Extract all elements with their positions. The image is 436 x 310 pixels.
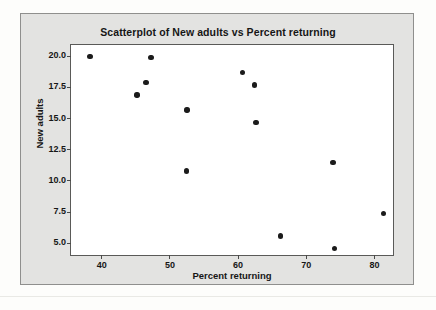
plot-area: 20.017.515.012.510.07.55.0 4050607080: [70, 44, 394, 256]
scatter-point: [278, 233, 283, 238]
x-axis-tick-mark: [101, 255, 102, 259]
chart-figure-panel: Scatterplot of New adults vs Percent ret…: [20, 13, 414, 285]
y-axis-tick-label: 5.0: [53, 237, 66, 247]
y-axis-title: New adults: [34, 79, 45, 169]
x-axis-tick-label: 40: [88, 260, 116, 270]
y-axis-tick-mark: [67, 87, 71, 88]
scatter-point: [252, 82, 257, 87]
x-axis-tick-label: 60: [224, 260, 252, 270]
scatter-point: [87, 54, 92, 59]
x-axis-tick-mark: [374, 255, 375, 259]
y-axis-tick-label: 20.0: [48, 50, 66, 60]
y-axis-tick-mark: [67, 212, 71, 213]
y-axis-tick-label: 17.5: [48, 81, 66, 91]
x-axis-tick-mark: [169, 255, 170, 259]
chart-title: Scatterplot of New adults vs Percent ret…: [21, 26, 415, 38]
scatter-point: [332, 246, 337, 251]
scatter-point: [134, 92, 139, 97]
y-axis-tick-label: 12.5: [48, 144, 66, 154]
y-axis-tick-mark: [67, 180, 71, 181]
y-axis-tick-mark: [67, 118, 71, 119]
scatter-point: [330, 160, 335, 165]
y-axis-tick-mark: [67, 56, 71, 57]
x-axis-title: Percent returning: [70, 270, 394, 281]
scan-artifact: [0, 296, 436, 297]
y-axis-tick-label: 15.0: [48, 113, 66, 123]
scatter-point: [148, 55, 153, 60]
scatter-point: [143, 80, 148, 85]
y-axis-tick-label: 10.0: [48, 175, 66, 185]
scatter-point: [253, 120, 258, 125]
x-axis-tick-label: 80: [361, 260, 389, 270]
scanned-page: Scatterplot of New adults vs Percent ret…: [0, 0, 436, 310]
x-axis-tick-label: 70: [292, 260, 320, 270]
y-axis-tick-mark: [67, 149, 71, 150]
x-axis-tick-label: 50: [156, 260, 184, 270]
y-axis-tick-label: 7.5: [53, 206, 66, 216]
scatter-point: [381, 211, 386, 216]
scatter-point: [184, 168, 189, 173]
y-axis-tick-mark: [67, 243, 71, 244]
scatter-point: [184, 107, 189, 112]
x-axis-tick-mark: [238, 255, 239, 259]
scatter-point: [240, 70, 245, 75]
x-axis-tick-mark: [306, 255, 307, 259]
